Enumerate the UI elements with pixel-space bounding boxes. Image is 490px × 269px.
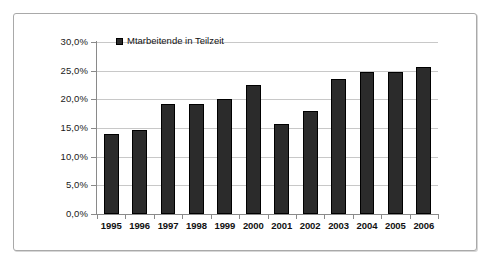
bar	[132, 130, 147, 214]
screenshot-page: 0,0%5,0%10,0%15,0%20,0%25,0%30,0% 199519…	[0, 0, 490, 269]
x-axis-tick-label: 1996	[125, 220, 153, 232]
bar-series-mtarbeitende-in-teilzeit	[97, 42, 438, 214]
y-axis-tick-label: 20,0%	[16, 94, 88, 104]
y-axis-tick-label: 10,0%	[16, 152, 88, 162]
bar	[217, 99, 232, 214]
bar	[416, 67, 431, 214]
x-axis-tick-label: 2000	[239, 220, 267, 232]
bar	[161, 104, 176, 214]
x-axis-tick-label: 2005	[381, 220, 409, 232]
y-axis-tick-label: 5,0%	[16, 180, 88, 190]
x-axis-tick-label: 1998	[182, 220, 210, 232]
bar	[189, 104, 204, 214]
x-axis-tick-label: 2006	[410, 220, 438, 232]
legend-swatch-icon	[116, 38, 123, 45]
x-axis-tick-mark	[154, 214, 155, 219]
plot-area	[97, 42, 438, 214]
x-axis-tick-label: 1999	[211, 220, 239, 232]
x-axis-tick-mark	[211, 214, 212, 219]
bar	[274, 124, 289, 214]
y-axis-line	[96, 41, 97, 215]
y-axis-tick-label: 15,0%	[16, 123, 88, 133]
bar	[331, 79, 346, 214]
bar	[360, 72, 375, 214]
x-axis-tick-mark	[182, 214, 183, 219]
x-axis-tick-mark	[410, 214, 411, 219]
x-axis-tick-mark	[239, 214, 240, 219]
bar	[104, 134, 119, 214]
x-axis-tick-mark	[296, 214, 297, 219]
document-frame: 0,0%5,0%10,0%15,0%20,0%25,0%30,0% 199519…	[13, 13, 477, 251]
y-axis-tick-label: 25,0%	[16, 66, 88, 76]
y-axis-tick-label: 30,0%	[16, 37, 88, 47]
x-axis-tick-mark	[97, 214, 98, 219]
x-axis-tick-mark	[125, 214, 126, 219]
y-axis-tick-label: 0,0%	[16, 209, 88, 219]
x-axis-tick-label: 2001	[268, 220, 296, 232]
x-axis-tick-mark	[268, 214, 269, 219]
bar	[388, 72, 403, 214]
x-axis-tick-label: 2003	[324, 220, 352, 232]
y-axis-labels: 0,0%5,0%10,0%15,0%20,0%25,0%30,0%	[14, 14, 88, 252]
x-axis-tick-mark	[353, 214, 354, 219]
x-axis-tick-label: 2002	[296, 220, 324, 232]
x-axis-tick-label: 2004	[353, 220, 381, 232]
bar	[303, 111, 318, 214]
x-axis-tick-label: 1997	[154, 220, 182, 232]
x-axis-labels: 1995199619971998199920002001200220032004…	[97, 220, 438, 236]
x-axis-tick-label: 1995	[97, 220, 125, 232]
chart-legend: Mtarbeitende in Teilzeit	[116, 36, 224, 46]
bar-chart: 0,0%5,0%10,0%15,0%20,0%25,0%30,0% 199519…	[14, 14, 478, 252]
x-axis-tick-mark	[381, 214, 382, 219]
x-axis-tick-mark	[324, 214, 325, 219]
x-axis-tick-mark	[438, 214, 439, 219]
legend-label: Mtarbeitende in Teilzeit	[127, 36, 224, 46]
bar	[246, 85, 261, 214]
